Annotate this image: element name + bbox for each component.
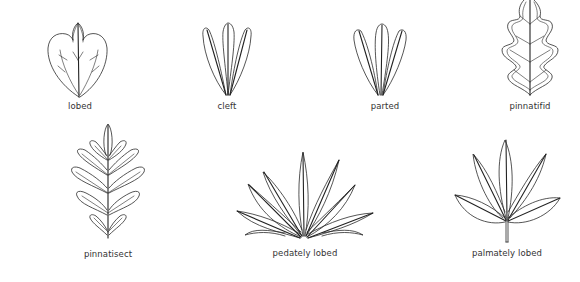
palmately-lobed-leaf-icon	[0, 0, 580, 282]
label-palmately-lobed: palmately lobed	[472, 248, 542, 258]
